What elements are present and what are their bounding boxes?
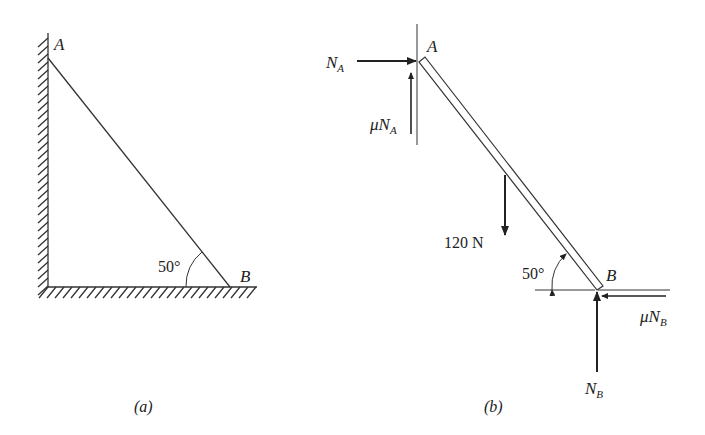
ladder-diagram: A B 50° (a) NA μNA A 120 N 50° B μNB NB … <box>0 0 705 435</box>
hatch-mark <box>55 287 64 298</box>
label-b-angle: 50° <box>522 265 544 282</box>
hatch-mark <box>38 278 48 287</box>
hatch-mark <box>38 262 48 271</box>
label-mu-na: μNA <box>369 115 397 136</box>
hatch-mark <box>38 142 48 151</box>
angle-arc-a <box>186 252 202 287</box>
caption-a: (a) <box>134 398 153 416</box>
hatch-mark <box>207 287 216 298</box>
wall <box>38 33 48 295</box>
hatch-mark <box>38 214 48 223</box>
hatch-mark <box>111 287 120 298</box>
hatch-mark <box>71 287 80 298</box>
hatch-mark <box>191 287 200 298</box>
caption-b: (b) <box>484 398 503 416</box>
hatch-mark <box>38 198 48 207</box>
hatch-mark <box>38 54 48 63</box>
hatch-mark <box>95 287 104 298</box>
hatch-mark <box>159 287 168 298</box>
hatch-mark <box>38 86 48 95</box>
label-b-point-a: A <box>426 37 438 56</box>
label-a-point-b: B <box>240 267 251 286</box>
hatch-mark <box>103 287 112 298</box>
hatch-mark <box>38 206 48 215</box>
hatch-mark <box>38 246 48 255</box>
hatch-mark <box>38 94 48 103</box>
hatch-mark <box>38 78 48 87</box>
hatch-mark <box>38 174 48 183</box>
hatch-mark <box>215 287 224 298</box>
hatch-mark <box>87 287 96 298</box>
ladder-a <box>48 58 230 287</box>
hatch-mark <box>175 287 184 298</box>
hatch-mark <box>231 287 240 298</box>
hatch-mark <box>135 287 144 298</box>
hatch-mark <box>38 254 48 263</box>
label-na: NA <box>325 53 344 74</box>
hatch-mark <box>38 46 48 55</box>
hatch-mark <box>38 182 48 191</box>
hatch-mark <box>38 222 48 231</box>
hatch-mark <box>38 118 48 127</box>
label-a-point-a: A <box>53 35 65 54</box>
hatch-mark <box>38 150 48 159</box>
hatch-mark <box>151 287 160 298</box>
hatch-mark <box>38 230 48 239</box>
label-weight: 120 N <box>444 234 484 251</box>
floor <box>39 287 257 298</box>
label-mu-nb: μNB <box>639 307 667 328</box>
hatch-mark <box>199 287 208 298</box>
hatch-mark <box>143 287 152 298</box>
hatch-mark <box>119 287 128 298</box>
hatch-mark <box>38 62 48 71</box>
figure-a: A B 50° (a) <box>38 33 257 416</box>
hatch-mark <box>127 287 136 298</box>
hatch-mark <box>38 70 48 79</box>
hatch-mark <box>38 158 48 167</box>
hatch-mark <box>247 287 256 298</box>
label-nb: NB <box>584 379 603 400</box>
hatch-mark <box>63 287 72 298</box>
hatch-mark <box>167 287 176 298</box>
hatch-mark <box>38 102 48 111</box>
hatch-mark <box>38 166 48 175</box>
hatch-mark <box>38 134 48 143</box>
hatch-mark <box>38 38 48 47</box>
hatch-mark <box>223 287 232 298</box>
hatch-mark <box>183 287 192 298</box>
ladder-b <box>419 57 603 290</box>
hatch-mark <box>38 238 48 247</box>
hatch-mark <box>239 287 248 298</box>
hatch-mark <box>38 270 48 279</box>
hatch-mark <box>47 287 56 298</box>
hatch-mark <box>38 110 48 119</box>
label-b-point-b: B <box>606 266 617 285</box>
hatch-mark <box>38 126 48 135</box>
figure-b: NA μNA A 120 N 50° B μNB NB (b) <box>325 24 670 416</box>
hatch-mark <box>38 190 48 199</box>
label-a-angle: 50° <box>158 258 180 275</box>
angle-arc-b <box>552 254 566 290</box>
hatch-mark <box>79 287 88 298</box>
